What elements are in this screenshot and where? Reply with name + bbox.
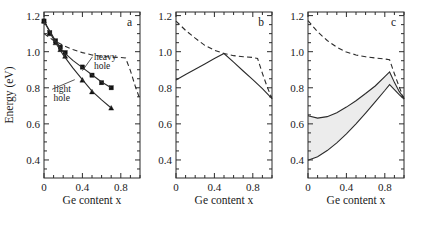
x-tick-label: 0.8 xyxy=(246,181,260,193)
y-tick-label: 1.0 xyxy=(26,46,40,58)
annotation-leader-line xyxy=(82,57,92,71)
energy-vs-ge-content-figure: 00.40.80.40.60.81.01.2Ge content xEnergy… xyxy=(0,0,428,228)
panel-letter-a: a xyxy=(127,16,132,28)
curve-unstrained-indirect-gap xyxy=(308,21,404,99)
plot-frame-b xyxy=(176,12,272,178)
panel-letter-b: b xyxy=(258,16,264,28)
y-tick-label: 1.2 xyxy=(290,10,304,22)
x-tick-label: 0.4 xyxy=(76,181,90,193)
y-tick-label: 0.8 xyxy=(290,82,304,94)
x-tick-label: 0.4 xyxy=(208,181,222,193)
curve-unstrained-indirect-gap xyxy=(176,21,272,99)
x-tick-label: 0.4 xyxy=(340,181,354,193)
y-tick-label: 0.6 xyxy=(26,118,40,130)
y-tick-label: 0.4 xyxy=(290,154,304,166)
y-tick-label: 1.2 xyxy=(158,10,172,22)
y-tick-label: 0.4 xyxy=(26,154,40,166)
x-tick-label: 0 xyxy=(41,181,47,193)
panel-a: 00.40.80.40.60.81.01.2Ge content xEnergy… xyxy=(3,10,140,206)
x-tick-label: 0 xyxy=(305,181,311,193)
y-tick-label: 1.0 xyxy=(158,46,172,58)
annotation-label: hole xyxy=(94,61,110,71)
y-tick-label: 0.6 xyxy=(158,118,172,130)
annotation-label: hole xyxy=(54,93,70,103)
y-axis-title: Energy (eV) xyxy=(3,66,16,123)
y-tick-label: 0.8 xyxy=(26,82,40,94)
y-tick-label: 1.2 xyxy=(26,10,40,22)
y-tick-label: 0.6 xyxy=(290,118,304,130)
x-axis-title-c: Ge content x xyxy=(327,194,386,206)
y-tick-label: 1.0 xyxy=(290,46,304,58)
y-tick-label: 0.8 xyxy=(158,82,172,94)
x-tick-label: 0 xyxy=(173,181,179,193)
x-tick-label: 0.8 xyxy=(378,181,392,193)
panel-letter-c: c xyxy=(391,16,396,28)
x-axis-title-b: Ge content x xyxy=(195,194,254,206)
panel-b: 00.40.80.40.60.81.01.2Ge content xb xyxy=(158,10,272,206)
figure-container: 00.40.80.40.60.81.01.2Ge content xEnergy… xyxy=(0,0,428,228)
x-axis-title-a: Ge content x xyxy=(63,194,122,206)
panel-c: 00.40.80.40.60.81.01.2Ge content xc xyxy=(290,10,404,206)
x-tick-label: 0.8 xyxy=(114,181,128,193)
y-tick-label: 0.4 xyxy=(158,154,172,166)
